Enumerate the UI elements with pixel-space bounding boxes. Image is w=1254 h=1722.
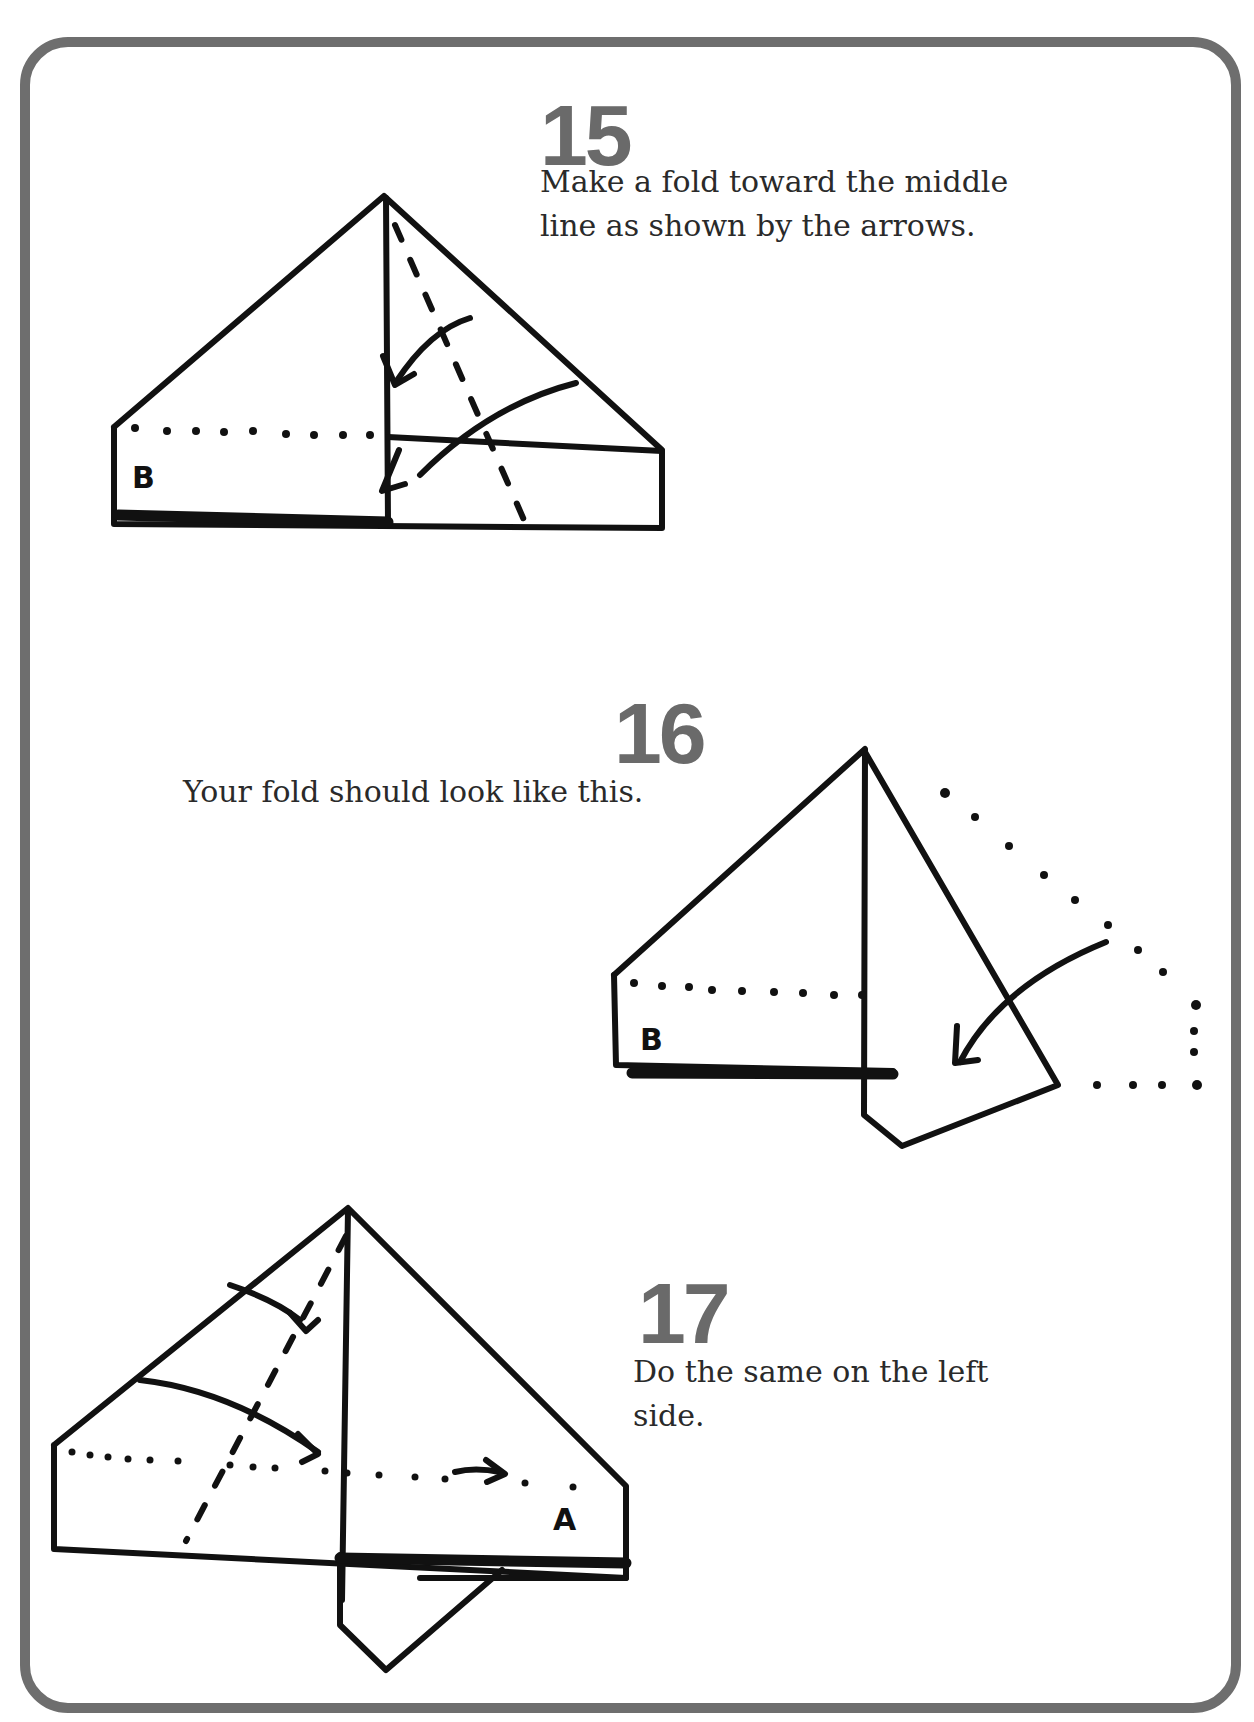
step-16-point-label: B: [640, 1022, 663, 1057]
origami-diagrams: B B: [0, 0, 1254, 1722]
diagram-step-17: A: [54, 1208, 626, 1670]
diagram-step-16: B: [614, 749, 1202, 1146]
step-15-point-label: B: [132, 460, 155, 495]
diagram-step-15: B: [114, 196, 662, 528]
step-17-point-label: A: [553, 1502, 577, 1537]
